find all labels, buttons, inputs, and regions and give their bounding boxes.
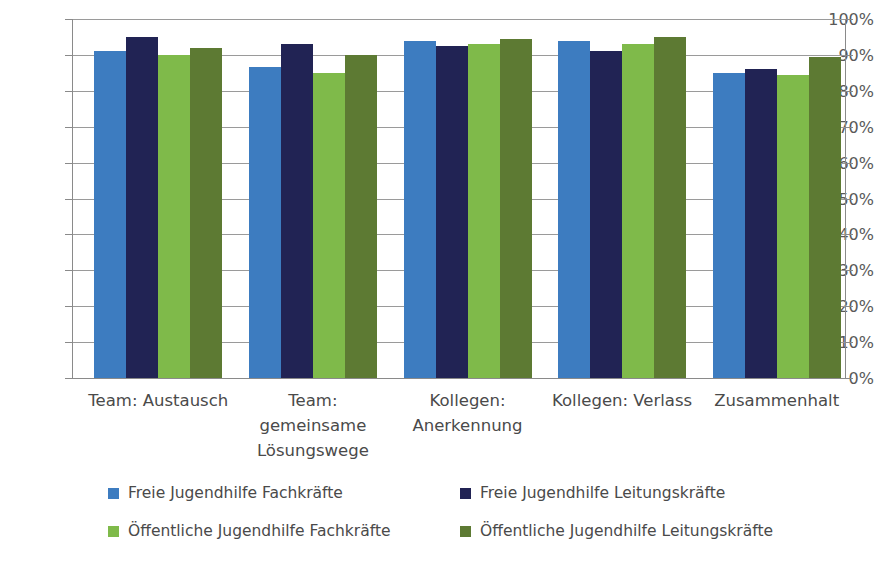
- right-axis-tick-mark: [846, 234, 853, 235]
- right-axis-tick-mark: [846, 199, 853, 200]
- bar-series-layer: [72, 19, 845, 378]
- legend-swatch-icon: [460, 488, 471, 499]
- x-axis-category-label: Zusammenhalt: [682, 388, 872, 413]
- bar: [94, 51, 126, 378]
- right-axis-line: [845, 19, 846, 379]
- bar: [468, 44, 500, 378]
- bar: [345, 55, 377, 378]
- legend-row: Freie Jugendhilfe Fachkräfte Freie Jugen…: [108, 484, 808, 522]
- bar: [249, 67, 281, 378]
- y-axis-tick-mark: [65, 342, 72, 343]
- bar: [558, 41, 590, 378]
- legend-swatch-icon: [108, 488, 119, 499]
- legend-label: Öffentliche Jugendhilfe Fachkräfte: [128, 522, 391, 540]
- category-label-line: Anerkennung: [373, 413, 563, 438]
- bar: [190, 48, 222, 378]
- legend-label: Öffentliche Jugendhilfe Leitungskräfte: [480, 522, 773, 540]
- legend-item-freie-leitungskraefte[interactable]: Freie Jugendhilfe Leitungskräfte: [460, 484, 725, 502]
- y-axis-tick-mark: [65, 378, 72, 379]
- bar: [622, 44, 654, 378]
- legend-item-oeffentliche-fachkraefte[interactable]: Öffentliche Jugendhilfe Fachkräfte: [108, 522, 460, 540]
- legend-swatch-icon: [108, 526, 119, 537]
- bar: [500, 39, 532, 378]
- bar: [654, 37, 686, 378]
- y-axis-tick-mark: [65, 163, 72, 164]
- bar: [281, 44, 313, 378]
- y-axis-tick-mark: [65, 199, 72, 200]
- right-axis-tick-mark: [846, 55, 853, 56]
- y-axis-line: [72, 19, 73, 379]
- legend-label: Freie Jugendhilfe Fachkräfte: [128, 484, 343, 502]
- bar: [590, 51, 622, 378]
- y-axis-tick-mark: [65, 91, 72, 92]
- right-axis-tick-mark: [846, 91, 853, 92]
- bar: [436, 46, 468, 378]
- right-axis-tick-mark: [846, 342, 853, 343]
- legend-swatch-icon: [460, 526, 471, 537]
- plot-area: [72, 19, 845, 378]
- right-axis-tick-mark: [846, 127, 853, 128]
- bar: [745, 69, 777, 378]
- right-axis-tick-mark: [846, 19, 853, 20]
- category-label-line: Zusammenhalt: [682, 388, 872, 413]
- y-axis-tick-mark: [65, 127, 72, 128]
- category-label-line: Lösungswege: [218, 438, 408, 463]
- bar: [809, 57, 841, 378]
- right-axis-tick-mark: [846, 306, 853, 307]
- legend-label: Freie Jugendhilfe Leitungskräfte: [480, 484, 725, 502]
- bar: [713, 73, 745, 378]
- y-axis-tick-mark: [65, 234, 72, 235]
- y-axis-tick-mark: [65, 55, 72, 56]
- y-axis-tick-mark: [65, 270, 72, 271]
- y-axis-tick-mark: [65, 19, 72, 20]
- gridline: [72, 378, 845, 379]
- bar: [313, 73, 345, 378]
- bar: [158, 55, 190, 378]
- legend-item-oeffentliche-leitungskraefte[interactable]: Öffentliche Jugendhilfe Leitungskräfte: [460, 522, 773, 540]
- legend-row: Öffentliche Jugendhilfe Fachkräfte Öffen…: [108, 522, 808, 560]
- bar: [404, 41, 436, 378]
- right-axis-tick-mark: [846, 163, 853, 164]
- legend-item-freie-fachkraefte[interactable]: Freie Jugendhilfe Fachkräfte: [108, 484, 460, 502]
- chart-legend: Freie Jugendhilfe Fachkräfte Freie Jugen…: [108, 484, 808, 560]
- bar-chart: 0%10%20%30%40%50%60%70%80%90%100% Team: …: [0, 0, 874, 569]
- right-axis-tick-mark: [846, 270, 853, 271]
- bar: [126, 37, 158, 378]
- y-axis-tick-mark: [65, 306, 72, 307]
- right-axis-tick-mark: [846, 378, 853, 379]
- bar: [777, 75, 809, 378]
